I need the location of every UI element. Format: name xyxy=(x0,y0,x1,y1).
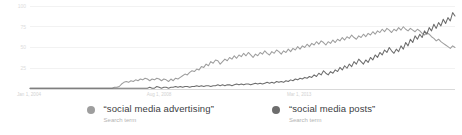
y-axis-tick-label: 50 xyxy=(20,44,26,50)
data-series-lines xyxy=(30,13,455,89)
legend-item-text: “social media posts” Search term xyxy=(289,104,375,123)
series-line-advertising xyxy=(30,27,455,88)
legend-item-social-media-advertising[interactable]: “social media advertising” Search term xyxy=(87,104,214,123)
y-axis-tick-label: 25 xyxy=(20,65,26,71)
chart-plot-region[interactable]: 100755025 Jan 1, 2004Aug 1, 2008Mar 1, 2… xyxy=(0,0,462,100)
legend-color-dot-icon xyxy=(272,106,280,114)
legend-search-term: “social media posts” xyxy=(289,104,375,114)
series-line-posts xyxy=(30,13,455,89)
trends-chart-widget: 100755025 Jan 1, 2004Aug 1, 2008Mar 1, 2… xyxy=(0,0,462,135)
gridlines xyxy=(30,6,455,68)
y-axis-tick-label: 100 xyxy=(18,3,27,9)
legend-item-type-label: Search term xyxy=(289,117,375,123)
legend-item-type-label: Search term xyxy=(104,117,214,123)
x-axis-tick-label: Jan 1, 2004 xyxy=(17,92,41,97)
legend-item-social-media-posts[interactable]: “social media posts” Search term xyxy=(272,104,375,123)
legend-item-text: “social media advertising” Search term xyxy=(104,104,214,123)
trends-line-chart: 100755025 Jan 1, 2004Aug 1, 2008Mar 1, 2… xyxy=(0,0,462,100)
x-axis-tick-label: Aug 1, 2008 xyxy=(147,92,172,97)
legend-color-dot-icon xyxy=(87,106,95,114)
y-axis-tick-label: 75 xyxy=(20,24,26,30)
legend-search-term: “social media advertising” xyxy=(104,104,214,114)
x-axis-tick-label: Mar 1, 2013 xyxy=(287,92,312,97)
x-axis-tick-labels: Jan 1, 2004Aug 1, 2008Mar 1, 2013 xyxy=(17,92,312,97)
y-axis-tick-labels: 100755025 xyxy=(18,3,27,71)
chart-legend: “social media advertising” Search term “… xyxy=(0,100,462,135)
